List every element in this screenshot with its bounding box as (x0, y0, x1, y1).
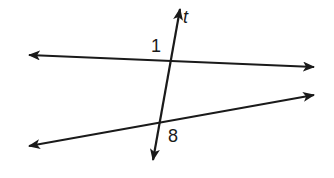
transversal-label: t (183, 8, 188, 26)
angle-8-label: 8 (168, 127, 178, 145)
diagram-canvas (0, 0, 334, 178)
angle-1-label: 1 (151, 37, 161, 55)
